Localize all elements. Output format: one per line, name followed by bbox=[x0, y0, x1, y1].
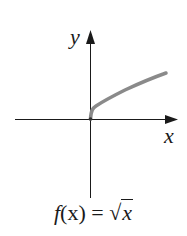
origin-point bbox=[89, 117, 93, 121]
radicand: x bbox=[121, 199, 133, 225]
sqrt-function-diagram: y x f(x) = √x bbox=[0, 0, 187, 236]
equals-sign: = bbox=[91, 200, 103, 225]
y-axis-arrowhead bbox=[86, 30, 95, 44]
function-caption: f(x) = √x bbox=[0, 200, 187, 226]
function-argument: (x) bbox=[60, 200, 86, 225]
x-axis-label: x bbox=[164, 123, 174, 149]
square-root-expression: √x bbox=[109, 200, 133, 226]
sqrt-curve bbox=[91, 73, 167, 119]
radical-sign: √ bbox=[109, 200, 121, 225]
y-axis-label: y bbox=[70, 24, 80, 50]
